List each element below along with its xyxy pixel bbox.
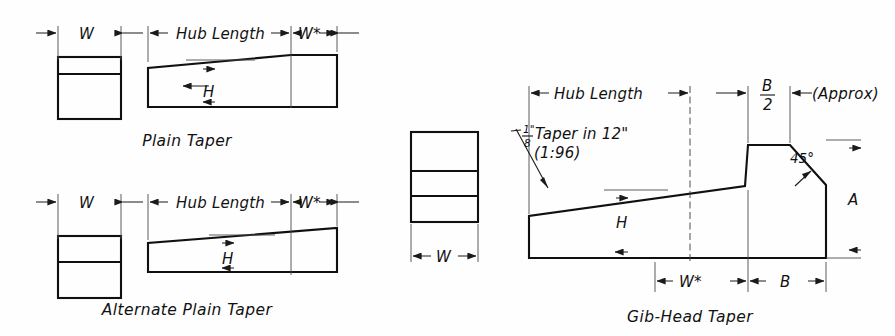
drawing-canvas: W Hub Length W* H Plain Taper (0, 0, 895, 336)
technical-drawing-sheet: W Hub Length W* H Plain Taper (0, 0, 895, 336)
label-b-gibhead: B (780, 273, 791, 291)
label-a-gibhead: A (847, 191, 858, 209)
alternate-taper-section (58, 236, 121, 298)
taper-fraction: 1" 8 (522, 123, 535, 149)
caption-gib-head-taper: Gib-Head Taper (627, 308, 754, 326)
b-over-2-denominator: 2 (763, 96, 773, 114)
view-plain-taper: W Hub Length W* H Plain Taper (36, 25, 359, 150)
label-wstar-gibhead: W* (679, 273, 702, 291)
label-taper-ratio: (1:96) (534, 144, 581, 162)
dim-h-gibhead (604, 190, 668, 252)
label-h-plain: H (203, 83, 214, 101)
label-w-plain: W (79, 25, 95, 43)
label-approx: (Approx) (812, 85, 879, 103)
label-taper-text: Taper in 12" (535, 125, 628, 143)
label-hub-plain: Hub Length (176, 25, 265, 43)
angle-45-leader (795, 171, 811, 186)
label-wstar-alternate: W* (298, 194, 321, 212)
b-over-2-fraction: B 2 (760, 77, 775, 114)
caption-plain-taper: Plain Taper (142, 132, 233, 150)
plain-taper-section (58, 57, 121, 119)
b-over-2-numerator: B (762, 77, 773, 95)
view-alternate-plain-taper: W Hub Length W* H Alternate Plain Taper (36, 194, 359, 319)
label-w-gibhead: W (436, 248, 452, 266)
label-w-alternate: W (79, 194, 95, 212)
label-hub-gibhead: Hub Length (554, 85, 643, 103)
taper-fraction-numerator: 1" (523, 123, 535, 135)
dim-h-alternate (209, 235, 275, 268)
label-hub-alternate: Hub Length (176, 194, 265, 212)
caption-alternate-plain-taper: Alternate Plain Taper (101, 301, 274, 319)
gib-head-section (411, 132, 478, 222)
plain-taper-profile (148, 55, 337, 107)
label-h-alternate: H (222, 250, 233, 268)
taper-fraction-denominator: 8 (524, 137, 531, 149)
dim-h-plain (186, 60, 255, 102)
view-gib-head-taper: W H Hub Length (411, 77, 879, 326)
label-h-gibhead: H (616, 214, 627, 232)
label-wstar-plain: W* (298, 25, 321, 43)
label-45-degrees: 45° (790, 150, 814, 166)
